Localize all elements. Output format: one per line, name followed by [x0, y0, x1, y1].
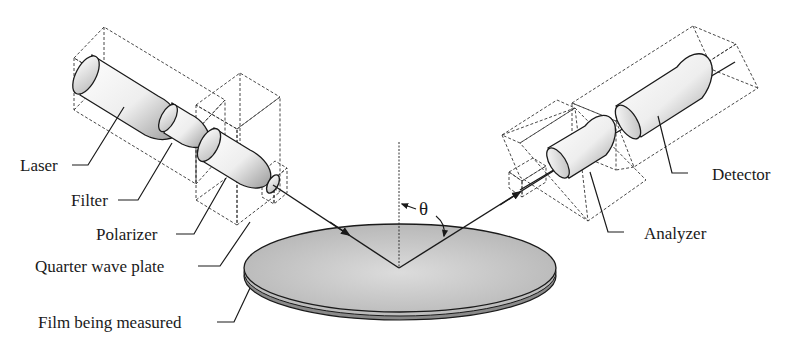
- label-quarter-wave-plate: Quarter wave plate: [35, 258, 164, 275]
- label-polarizer: Polarizer: [96, 226, 157, 243]
- ellipsometer-diagram: [0, 0, 800, 350]
- label-analyzer: Analyzer: [644, 225, 706, 242]
- label-angle-theta: θ: [419, 199, 428, 218]
- sample-disk: [244, 224, 556, 320]
- label-filter: Filter: [71, 192, 108, 209]
- label-detector: Detector: [712, 166, 771, 183]
- label-film: Film being measured: [38, 314, 182, 331]
- label-laser: Laser: [20, 157, 58, 174]
